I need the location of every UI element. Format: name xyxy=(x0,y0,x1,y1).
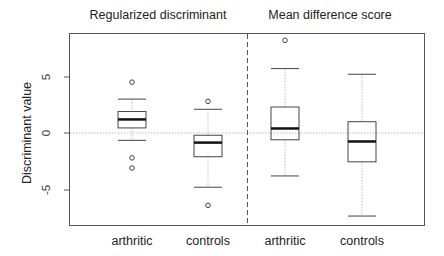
panel-title-left: Regularized discriminant xyxy=(90,8,227,22)
outlier-point xyxy=(206,203,211,208)
y-tick-label-neg5: -5 xyxy=(40,185,52,195)
y-axis-label: Discriminant value xyxy=(20,82,34,184)
outlier-point xyxy=(130,80,135,85)
y-tick-label-5: 5 xyxy=(40,74,52,80)
x-tick-label-arthritic-2: arthritic xyxy=(265,234,306,248)
x-tick-label-controls-1: controls xyxy=(186,234,230,248)
outlier-point xyxy=(206,99,211,104)
iqr-box xyxy=(271,107,299,140)
boxplot-chart xyxy=(0,0,444,256)
iqr-box xyxy=(194,135,222,156)
x-tick-label-controls-2: controls xyxy=(340,234,384,248)
outlier-point xyxy=(283,38,288,43)
y-tick-label-0: 0 xyxy=(40,130,52,136)
outlier-point xyxy=(130,156,135,161)
x-tick-label-arthritic-1: arthritic xyxy=(112,234,153,248)
outlier-point xyxy=(130,166,135,171)
panel-title-right: Mean difference score xyxy=(268,8,391,22)
